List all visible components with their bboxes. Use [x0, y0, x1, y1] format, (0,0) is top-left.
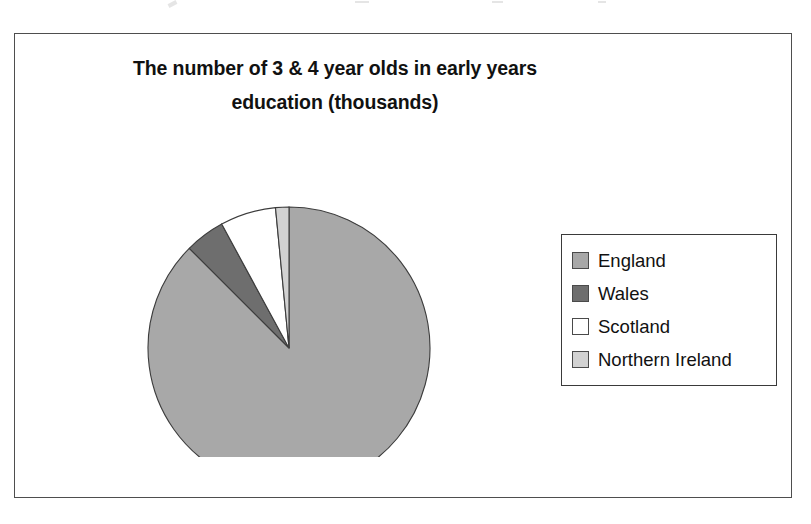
page-title: The number of 3 & 4 year olds in early y… [75, 51, 595, 119]
legend-swatch-northern-ireland [572, 351, 589, 368]
scan-artifact [492, 1, 503, 3]
pie-chart-svg [147, 173, 431, 457]
legend-swatch-england [572, 252, 589, 269]
scan-artifact [168, 0, 178, 8]
legend-label-wales: Wales [598, 283, 649, 305]
figure-frame: The number of 3 & 4 year olds in early y… [14, 33, 792, 498]
legend-label-scotland: Scotland [598, 316, 670, 338]
legend-item-wales: Wales [572, 277, 776, 310]
legend-item-northern-ireland: Northern Ireland [572, 343, 776, 376]
legend-swatch-scotland [572, 318, 589, 335]
scan-artifact [598, 1, 606, 3]
scan-artifact [355, 1, 369, 3]
pie-slice-group [148, 207, 430, 457]
legend-label-england: England [598, 250, 666, 272]
chart-legend: England Wales Scotland Northern Ireland [561, 234, 777, 386]
chart-title-line-1: The number of 3 & 4 year olds in early y… [75, 51, 595, 85]
pie-chart [147, 173, 431, 457]
chart-title-line-2: education (thousands) [75, 85, 595, 119]
screenshot-canvas: The number of 3 & 4 year olds in early y… [0, 0, 811, 524]
legend-item-scotland: Scotland [572, 310, 776, 343]
legend-swatch-wales [572, 285, 589, 302]
legend-label-northern-ireland: Northern Ireland [598, 349, 732, 371]
legend-item-england: England [572, 244, 776, 277]
